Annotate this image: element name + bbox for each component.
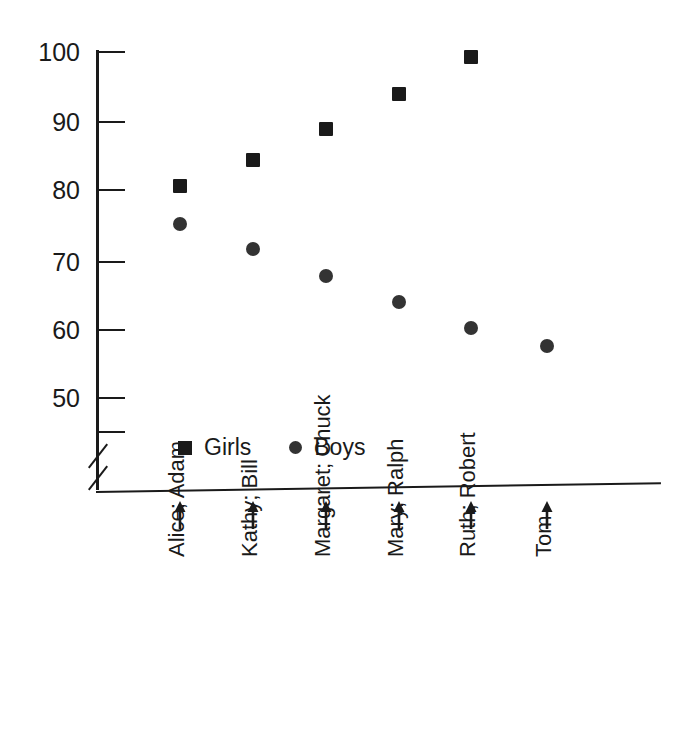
- y-axis-tick-80: [99, 189, 125, 191]
- y-axis-line: [96, 50, 99, 490]
- data-point-girls-ruth: [464, 50, 478, 64]
- y-axis-tick-60: [99, 329, 125, 331]
- legend-circle-marker-icon: [289, 441, 302, 454]
- y-axis-tick-100: [99, 51, 125, 53]
- y-axis-tick-unlabeled: [99, 431, 125, 433]
- category-label-ruth-robert: Ruth; Robert: [457, 432, 479, 557]
- y-axis-label-100: 100: [0, 40, 80, 65]
- category-label-tom: Tom: [533, 515, 555, 557]
- legend-label-girls: Girls: [204, 436, 251, 459]
- data-point-boys-ralph: [392, 295, 406, 309]
- category-label-kathy-bill: Kathy; Bill: [239, 459, 261, 557]
- y-axis-label-90: 90: [0, 110, 80, 135]
- data-point-boys-adam: [173, 217, 187, 231]
- y-axis-tick-90: [99, 121, 125, 123]
- category-label-alice-adam: Alice; Adam: [166, 441, 188, 557]
- category-label-margaret-chuck: Margaret; Chuck: [312, 394, 334, 557]
- y-axis-label-60: 60: [0, 318, 80, 343]
- y-axis-tick-70: [99, 261, 125, 263]
- data-point-boys-chuck: [319, 269, 333, 283]
- category-label-mary-ralph: Mary; Ralph: [385, 438, 407, 557]
- y-axis-tick-50: [99, 397, 125, 399]
- data-point-girls-alice: [173, 179, 187, 193]
- scatter-chart: 100 90 80 70 60 50 Girls Boys: [0, 0, 678, 734]
- data-point-boys-bill: [246, 242, 260, 256]
- data-point-girls-kathy: [246, 153, 260, 167]
- data-point-girls-mary: [392, 87, 406, 101]
- y-axis-label-70: 70: [0, 250, 80, 275]
- data-point-boys-tom: [540, 339, 554, 353]
- legend: Girls Boys: [178, 436, 365, 459]
- y-axis-label-50: 50: [0, 386, 80, 411]
- y-axis-label-80: 80: [0, 178, 80, 203]
- data-point-boys-robert: [464, 321, 478, 335]
- data-point-girls-margaret: [319, 122, 333, 136]
